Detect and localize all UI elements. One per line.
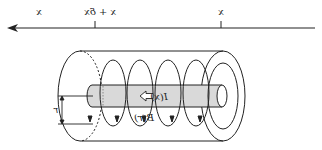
radius-label: r: [53, 105, 58, 115]
field-label: B(r): [134, 112, 155, 123]
field-arrow-icon: [115, 116, 119, 122]
current-label: I(x): [150, 91, 168, 102]
field-arrow-icon: [198, 116, 202, 122]
axis-label-x: x: [218, 6, 224, 17]
position-axis: [7, 21, 315, 32]
field-arrow-icon: [88, 116, 92, 122]
coaxial-cylinder-diagram: x x + δx x: [0, 0, 322, 150]
field-arrow-icon: [170, 116, 174, 122]
axis-label-far: x: [36, 6, 42, 17]
axis-label-x-plus-dx: x + δx: [84, 6, 116, 17]
